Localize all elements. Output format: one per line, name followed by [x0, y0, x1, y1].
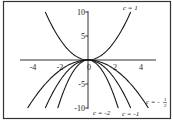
y-tick-label: -10 [74, 104, 85, 113]
x-tick-label: -4 [30, 63, 37, 72]
x-tick-label: -2 [57, 63, 64, 72]
curve-label-cmhalf: c = - [146, 98, 160, 106]
curve-label-cm2: c = -2 [93, 109, 111, 117]
x-tick-label: 2 [113, 63, 117, 72]
curve-label-c1: c = 1 [123, 4, 138, 12]
x-tick-label: 4 [139, 63, 143, 72]
y-tick-label: -5 [78, 80, 85, 89]
y-tick-label: 5 [81, 32, 85, 41]
plot-area: -4 -2 0 2 4 10 5 -5 -10 c = 1 c = -2 c =… [0, 0, 173, 124]
curve-label-cm1: c = -1 [122, 110, 139, 118]
y-tick-label: 10 [77, 8, 85, 17]
x-tick-label: 0 [87, 63, 91, 72]
